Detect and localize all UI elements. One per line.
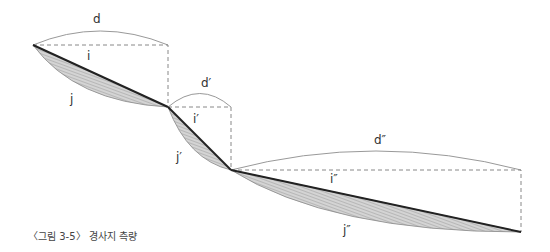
label-j2: j″ <box>343 223 351 237</box>
slope-line-i2 <box>231 170 521 232</box>
label-i2: i″ <box>330 172 338 186</box>
arc-d2 <box>231 151 521 170</box>
arc-d1 <box>168 94 231 108</box>
label-i: i <box>87 49 90 63</box>
arc-d <box>33 31 168 45</box>
slope-survey-diagram <box>0 0 550 252</box>
segment-3 <box>231 151 521 232</box>
label-j: j <box>70 92 73 106</box>
figure-caption: 〈그림 3-5〉 경사지 측량 <box>28 228 137 243</box>
label-d1: d′ <box>201 76 211 90</box>
label-d: d <box>93 12 101 26</box>
label-j1: j′ <box>176 150 182 164</box>
segment-1 <box>33 31 168 107</box>
slope-line-i <box>33 45 168 107</box>
label-d2: d″ <box>374 133 386 147</box>
label-i1: i′ <box>193 112 199 126</box>
